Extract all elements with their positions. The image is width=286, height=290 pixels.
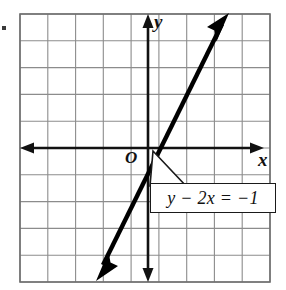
x-axis-label: x: [258, 149, 268, 171]
x-axis-arrow-left: [20, 143, 34, 154]
y-axis-label: y: [154, 11, 162, 33]
equation-label: y − 2x = −1: [167, 188, 259, 209]
coordinate-plane: [0, 0, 286, 290]
origin-label: O: [125, 148, 137, 168]
x-axis: [20, 143, 264, 154]
y-axis-arrow-up: [143, 14, 154, 28]
line-arrow-upper: [207, 13, 229, 42]
line-arrow-lower: [96, 252, 118, 282]
equation-callout: y − 2x = −1: [150, 183, 276, 213]
y-axis-arrow-down: [143, 268, 154, 282]
graph-figure: y − 2x = −1 y x O: [0, 0, 286, 290]
